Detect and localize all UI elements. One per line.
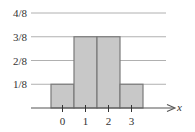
x-tick-label: 2 — [106, 115, 112, 127]
y-axis-labels: 1/82/83/84/8 — [13, 7, 28, 90]
x-tick-label: 3 — [129, 115, 135, 127]
bar-2 — [97, 37, 120, 108]
bar-1 — [74, 37, 97, 108]
x-tick-label: 1 — [83, 115, 89, 127]
bar-3 — [120, 84, 143, 108]
x-axis-label: x — [176, 101, 182, 113]
y-tick-label: 4/8 — [13, 7, 28, 19]
x-tick-label: 0 — [60, 115, 66, 127]
probability-histogram: 1/82/83/84/8 x0123 — [0, 0, 195, 132]
y-tick-label: 3/8 — [13, 31, 28, 43]
y-tick-label: 2/8 — [13, 55, 28, 67]
bar-0 — [51, 84, 74, 108]
y-tick-label: 1/8 — [13, 78, 28, 90]
bars — [51, 37, 143, 108]
